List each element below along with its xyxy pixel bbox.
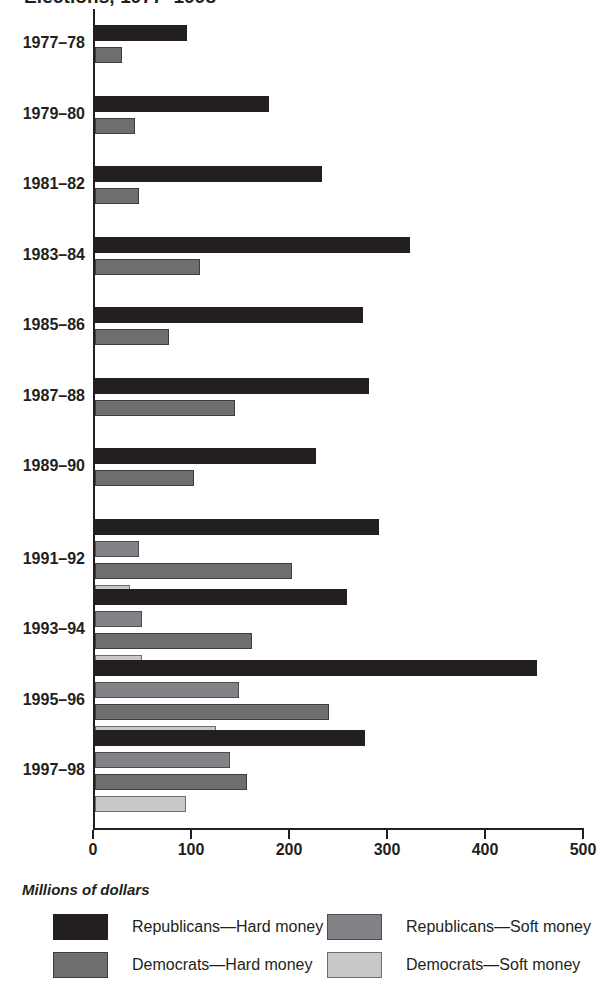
y-axis-category-label: 1993–94 [18, 620, 85, 638]
legend-swatch-republicans-soft-money [327, 914, 382, 940]
x-axis-tick-label: 300 [374, 841, 401, 859]
x-axis-tick-label: 100 [178, 841, 205, 859]
legend-item-democrats-hard-money: Democrats—Hard money [53, 952, 313, 978]
bar-group: 1987–88 [93, 378, 583, 416]
bar-republicans-hard-money [95, 96, 269, 112]
y-axis-category-label: 1981–82 [18, 175, 85, 193]
bar-group: 1989–90 [93, 448, 583, 486]
plot-area: 1977–781979–801981–821983–841985–861987–… [93, 9, 583, 830]
bar-democrats-hard-money [95, 633, 252, 649]
legend-label-democrats-hard-money: Democrats—Hard money [132, 956, 313, 974]
bar-democrats-hard-money [95, 774, 247, 790]
chart-title-text: Elections, 1977–1998 [24, 0, 216, 8]
bar-democrats-hard-money [95, 118, 135, 134]
bar-republicans-soft-money [95, 611, 142, 627]
bar-democrats-hard-money [95, 259, 200, 275]
y-axis-category-label: 1989–90 [18, 457, 85, 475]
bar-group: 1983–84 [93, 237, 583, 275]
x-axis-tick [190, 830, 192, 839]
bar-republicans-hard-money [95, 307, 363, 323]
x-axis-tick-label: 500 [570, 841, 597, 859]
bar-group: 1977–78 [93, 25, 583, 63]
bar-republicans-hard-money [95, 519, 379, 535]
bar-republicans-hard-money [95, 237, 410, 253]
x-axis-caption: Millions of dollars [22, 881, 150, 898]
bar-chart: 1977–781979–801981–821983–841985–861987–… [0, 9, 606, 845]
legend-label-democrats-soft-money: Democrats—Soft money [406, 956, 580, 974]
bar-democrats-hard-money [95, 563, 292, 579]
x-axis-line [93, 828, 584, 830]
bar-democrats-hard-money [95, 470, 194, 486]
y-axis-category-label: 1977–78 [18, 34, 85, 52]
y-axis-category-label: 1995–96 [18, 691, 85, 709]
bar-democrats-soft-money [95, 796, 186, 812]
y-axis-category-label: 1985–86 [18, 316, 85, 334]
bar-democrats-hard-money [95, 188, 139, 204]
legend-swatch-democrats-hard-money [53, 952, 108, 978]
bar-democrats-hard-money [95, 329, 169, 345]
y-axis-category-label: 1987–88 [18, 387, 85, 405]
chart-legend: Republicans—Hard money Democrats—Hard mo… [0, 912, 606, 984]
x-axis-tick [484, 830, 486, 839]
legend-item-democrats-soft-money: Democrats—Soft money [327, 952, 580, 978]
bar-republicans-hard-money [95, 448, 316, 464]
bar-democrats-hard-money [95, 47, 122, 63]
x-axis-tick-label: 400 [472, 841, 499, 859]
bar-republicans-hard-money [95, 589, 347, 605]
bar-republicans-hard-money [95, 166, 322, 182]
x-axis-tick [288, 830, 290, 839]
legend-item-republicans-soft-money: Republicans—Soft money [327, 914, 591, 940]
legend-label-republicans-hard-money: Republicans—Hard money [132, 918, 323, 936]
bar-republicans-soft-money [95, 752, 230, 768]
x-axis-tick [582, 830, 584, 839]
y-axis-category-label: 1983–84 [18, 246, 85, 264]
bar-group: 1981–82 [93, 166, 583, 204]
y-axis-category-label: 1979–80 [18, 105, 85, 123]
bar-democrats-hard-money [95, 704, 329, 720]
bar-group: 1997–98 [93, 730, 583, 812]
legend-swatch-democrats-soft-money [327, 952, 382, 978]
bar-republicans-hard-money [95, 730, 365, 746]
bar-republicans-hard-money [95, 660, 537, 676]
bar-democrats-hard-money [95, 400, 235, 416]
bar-republicans-hard-money [95, 25, 187, 41]
x-axis-tick-label: 200 [276, 841, 303, 859]
bar-republicans-hard-money [95, 378, 369, 394]
bar-group: 1985–86 [93, 307, 583, 345]
legend-swatch-republicans-hard-money [53, 914, 108, 940]
bar-republicans-soft-money [95, 541, 139, 557]
chart-title-clipped: Elections, 1977–1998 [0, 0, 606, 9]
x-axis-tick [386, 830, 388, 839]
bar-republicans-soft-money [95, 682, 239, 698]
bar-group: 1979–80 [93, 96, 583, 134]
legend-item-republicans-hard-money: Republicans—Hard money [53, 914, 323, 940]
y-axis-category-label: 1991–92 [18, 550, 85, 568]
x-axis-tick [92, 830, 94, 839]
y-axis-category-label: 1997–98 [18, 761, 85, 779]
legend-label-republicans-soft-money: Republicans—Soft money [406, 918, 591, 936]
x-axis-tick-label: 0 [89, 841, 98, 859]
